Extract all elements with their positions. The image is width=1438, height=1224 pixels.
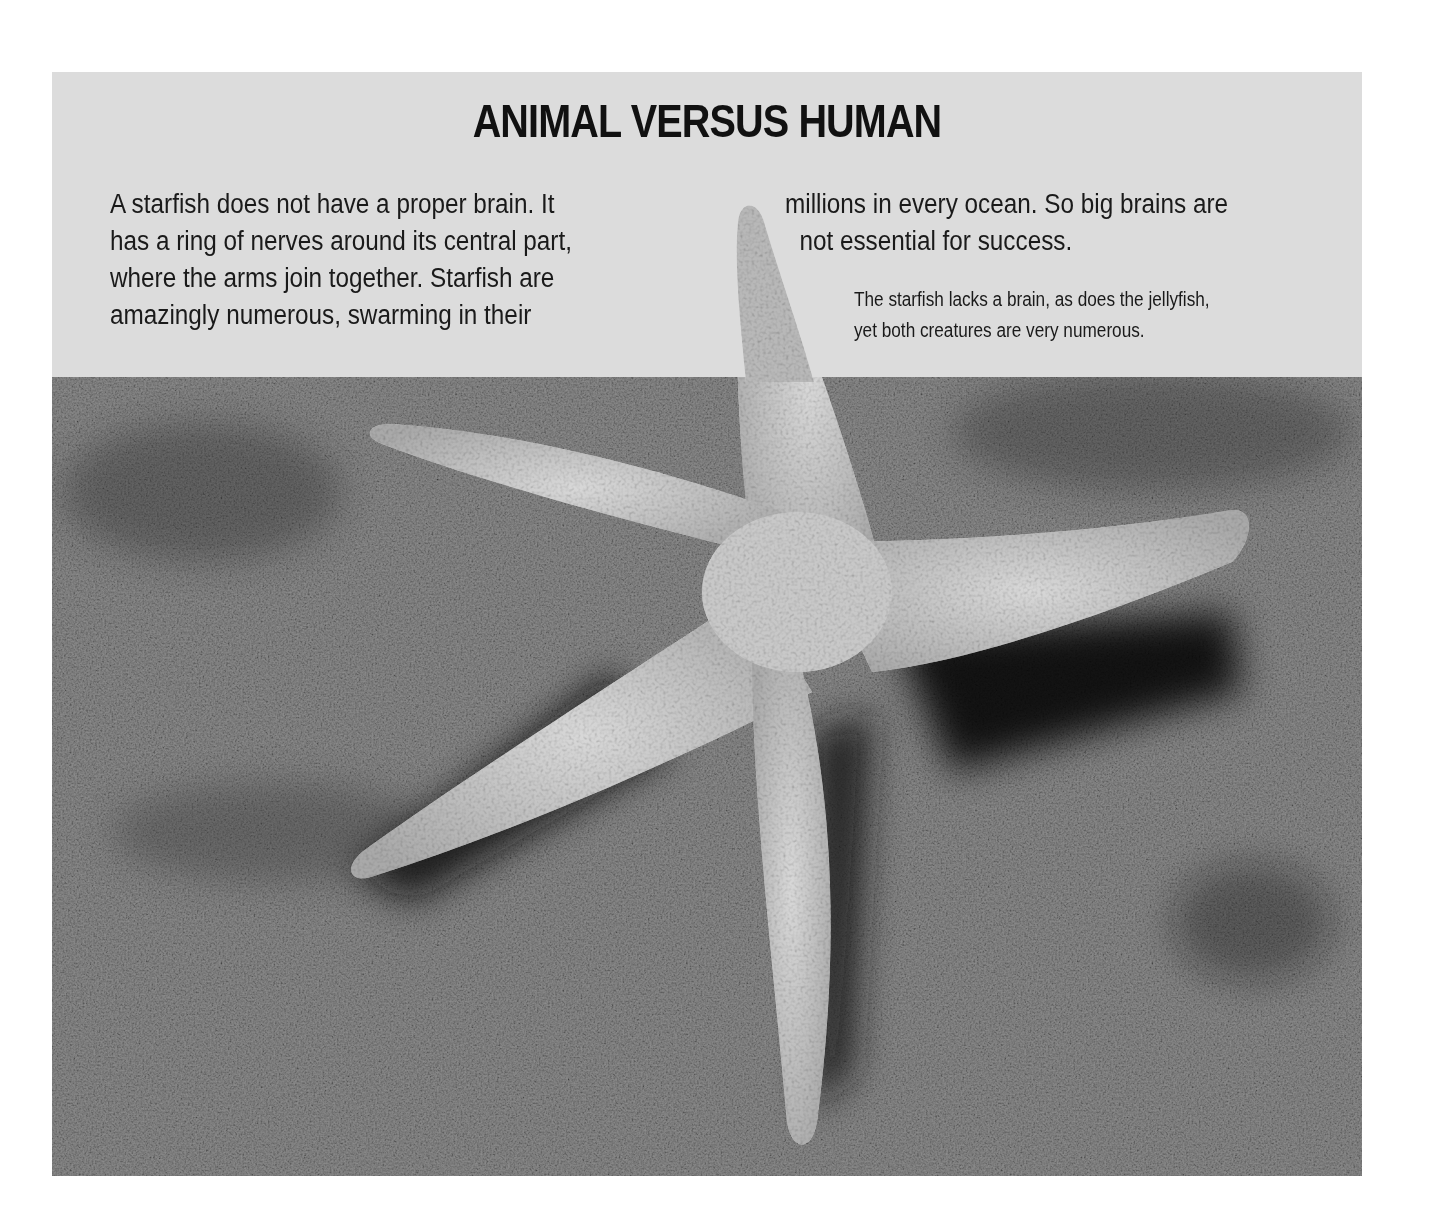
- body-line: not essential for success.: [785, 223, 1228, 260]
- body-line: millions in every ocean. So big brains a…: [785, 186, 1228, 223]
- page-title: ANIMAL VERSUS HUMAN: [144, 94, 1271, 148]
- article-panel: ANIMAL VERSUS HUMAN A starfish does not …: [52, 72, 1362, 1176]
- caption-line: The starfish lacks a brain, as does the …: [854, 284, 1210, 315]
- body-text-left: A starfish does not have a proper brain.…: [110, 186, 572, 334]
- body-line: has a ring of nerves around its central …: [110, 223, 572, 260]
- image-caption: The starfish lacks a brain, as does the …: [854, 284, 1210, 346]
- header-band: ANIMAL VERSUS HUMAN A starfish does not …: [52, 72, 1362, 377]
- caption-line: yet both creatures are very numerous.: [854, 315, 1210, 346]
- body-text-right: millions in every ocean. So big brains a…: [785, 186, 1228, 260]
- body-line: where the arms join together. Starfish a…: [110, 260, 572, 297]
- body-line: amazingly numerous, swarming in their: [110, 297, 572, 334]
- body-line: A starfish does not have a proper brain.…: [110, 186, 572, 223]
